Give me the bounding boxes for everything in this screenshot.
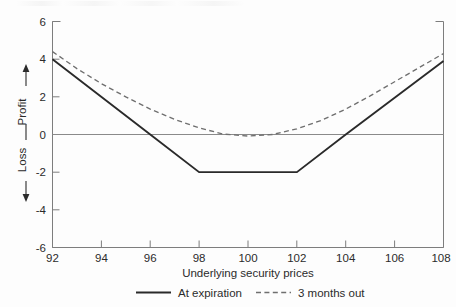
- y-tick-label: 6: [40, 16, 46, 28]
- legend-label-3-months-out: 3 months out: [298, 287, 365, 299]
- y-tick-label: 4: [40, 53, 47, 65]
- series-line-at-expiration: [53, 59, 444, 172]
- x-axis-ticks: [53, 241, 444, 248]
- legend-label-at-expiration: At expiration: [178, 287, 242, 299]
- x-tick-label: 100: [238, 252, 257, 264]
- series-line-3-months-out: [53, 52, 444, 136]
- y-axis-tick-labels: 6 4 2 0 -2 -4 -6: [36, 16, 47, 254]
- y-tick-label: 2: [40, 91, 46, 103]
- y-tick-label: -4: [36, 204, 47, 216]
- y-axis-loss-group: Loss: [16, 124, 29, 202]
- x-tick-label: 106: [385, 252, 404, 264]
- profit-loss-chart: 6 4 2 0 -2 -4 -6 92 94 96 98 100 102 104…: [0, 0, 456, 307]
- x-tick-label: 92: [46, 252, 59, 264]
- y-tick-label: -2: [36, 166, 46, 178]
- x-tick-label: 96: [144, 252, 157, 264]
- y-axis-profit-group: Profit: [16, 64, 29, 125]
- loss-arrow-down-icon: [23, 194, 30, 202]
- x-tick-label: 94: [95, 252, 108, 264]
- x-tick-label: 104: [336, 252, 356, 264]
- y-axis-loss-label: Loss: [16, 148, 28, 173]
- profit-arrow-up-icon: [23, 64, 30, 72]
- x-tick-label: 108: [431, 252, 450, 264]
- y-axis-profit-label: Profit: [16, 98, 28, 126]
- y-tick-label: 0: [40, 129, 46, 141]
- chart-page: 6 4 2 0 -2 -4 -6 92 94 96 98 100 102 104…: [0, 0, 456, 307]
- x-tick-label: 102: [287, 252, 306, 264]
- chart-legend: At expiration 3 months out: [136, 287, 365, 299]
- y-tick-label: -6: [36, 242, 46, 254]
- x-tick-label: 98: [193, 252, 206, 264]
- x-axis-tick-labels: 92 94 96 98 100 102 104 106 108: [46, 252, 450, 264]
- x-axis-title: Underlying security prices: [182, 267, 314, 279]
